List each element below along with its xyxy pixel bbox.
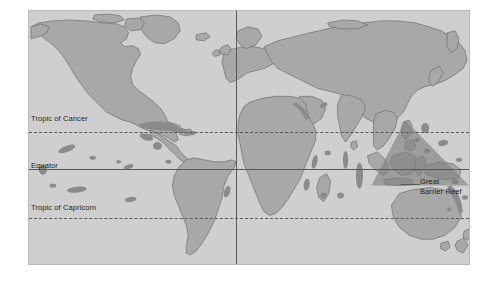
reef-patch	[356, 163, 363, 189]
tropic-of-cancer-label: Tropic of Cancer	[31, 114, 88, 123]
reef-patch	[184, 131, 196, 136]
reef-patch	[462, 195, 468, 199]
reef-patch	[320, 193, 327, 199]
reef-patch	[343, 151, 348, 169]
reef-patch	[153, 142, 162, 150]
world-map-graphic	[29, 11, 469, 264]
reef-patch	[165, 160, 171, 164]
reef-patch	[337, 193, 344, 199]
reef-patch	[447, 207, 452, 211]
reef-patch	[421, 123, 429, 133]
tropic-of-capricorn-label: Tropic of Capricorn	[31, 203, 96, 212]
reef-patch	[325, 150, 331, 155]
great-barrier-reef-leader-line	[401, 184, 420, 185]
great-barrier-reef-label: Great Barrier Reef	[420, 177, 462, 196]
reef-patch	[90, 156, 96, 160]
reef-patch	[50, 183, 57, 187]
reef-patch	[456, 158, 462, 162]
world-map-figure: Tropic of Cancer Equator Tropic of Capri…	[0, 0, 495, 286]
great-barrier-reef-label-line2: Barrier Reef	[420, 187, 462, 197]
equator-label: Equator	[31, 161, 58, 170]
great-barrier-reef-label-line1: Great	[420, 177, 462, 187]
map-frame: Tropic of Cancer Equator Tropic of Capri…	[28, 10, 470, 265]
reef-patch	[116, 160, 121, 164]
